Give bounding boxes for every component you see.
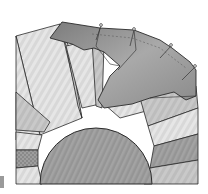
center-circle <box>40 128 152 184</box>
page-edge-mark <box>0 176 4 188</box>
dresden-plate-illustration <box>0 0 208 194</box>
